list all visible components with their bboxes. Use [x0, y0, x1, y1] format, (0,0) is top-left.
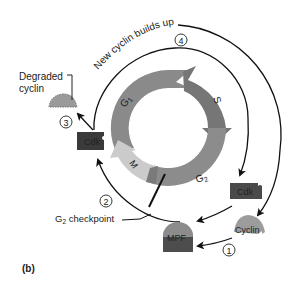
g2-checkpoint-label: G2 checkpoint: [55, 213, 114, 225]
degraded-cyclin-shape: [49, 94, 77, 107]
panel-label: (b): [22, 263, 35, 274]
new-cyclin-outer-arc: [178, 25, 281, 215]
step-3-number: 3: [63, 118, 68, 128]
cyclin-label: Cyclin: [235, 225, 260, 235]
checkpoint-leader: [122, 214, 151, 220]
cdk-left-label: Cdk: [84, 137, 101, 147]
cell-cycle-diagram: G1 S G2 M Degraded cyclin Cdk Cdk Cyclin: [0, 0, 300, 284]
cdk-right: Cdk: [230, 183, 262, 199]
cdk-right-label: Cdk: [237, 187, 254, 197]
cdk-left: Cdk: [77, 132, 104, 150]
step-4: 4: [175, 34, 187, 46]
g2-phase-segment: [147, 128, 226, 186]
degraded-cyclin-label-1: Degraded: [19, 71, 63, 82]
step-1: 1: [223, 244, 235, 256]
mpf-complex: MPF: [163, 222, 193, 252]
new-cyclin-label: New cyclin builds up: [91, 16, 175, 72]
step-1-number: 1: [226, 246, 231, 256]
step-4-number: 4: [178, 36, 183, 46]
cyclin-shape: Cyclin: [234, 215, 265, 235]
step-3: 3: [60, 116, 72, 128]
mpf-label: MPF: [167, 233, 187, 243]
degraded-cyclin-label-2: cyclin: [19, 83, 44, 94]
s-label: S: [211, 95, 224, 105]
degrade-arrow: [78, 114, 93, 130]
step-2: 2: [100, 195, 112, 207]
cdk-to-mpf-arrow: [198, 206, 232, 221]
cell-cycle-ring: G1 S G2 M: [110, 66, 232, 186]
g2-label: G2: [194, 171, 209, 186]
step-2-number: 2: [103, 197, 108, 207]
